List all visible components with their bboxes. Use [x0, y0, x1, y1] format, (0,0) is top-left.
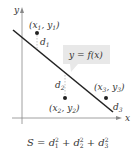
data-point-3	[104, 96, 108, 100]
data-point-2	[63, 96, 67, 100]
curve-label: y = f(x)	[68, 50, 103, 60]
distance-label-d1: d1	[40, 37, 50, 48]
sum-of-squares-equation: S = d21 + d22 + d23	[27, 136, 109, 149]
x-axis-label: x	[125, 113, 130, 123]
y-axis-label: y	[13, 5, 20, 15]
point-3-label: (x3, y3)	[94, 82, 125, 93]
x-axis-arrow-icon	[116, 116, 122, 120]
regression-line	[13, 30, 113, 112]
point-2-label: (x2, y2)	[49, 103, 80, 114]
y-axis-arrow-icon	[20, 7, 24, 13]
point-1-label: (x1, y1)	[29, 20, 60, 31]
distance-label-d3: d3	[113, 102, 123, 113]
data-point-1	[35, 31, 39, 35]
distance-label-d2: d2	[55, 80, 65, 91]
diagram-canvas: y x y = f(x) (x1, y1) d1 d2 (x2, y2) (x3…	[0, 0, 132, 153]
least-squares-diagram: y x y = f(x) (x1, y1) d1 d2 (x2, y2) (x3…	[0, 0, 132, 153]
curve-callout-pointer	[70, 64, 78, 72]
